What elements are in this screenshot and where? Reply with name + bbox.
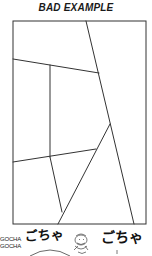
sfx-gochagocha-right: ごちゃ — [101, 230, 143, 244]
outer-frame — [13, 21, 146, 224]
speech-curve — [30, 250, 70, 256]
upper-cross-border — [13, 59, 99, 73]
sfx-gochagocha-left: ごちゃ — [25, 228, 65, 244]
chibi-character-doodle — [74, 234, 88, 254]
sfx-gocha-2: GOCHA — [0, 243, 21, 249]
sfx-gocha-1: GOCHA — [0, 236, 21, 242]
panel-layout-diagram — [0, 0, 152, 256]
long-diagonal-border — [86, 21, 134, 224]
lower-cross-border — [13, 149, 96, 162]
lower-slanted-border — [50, 157, 62, 212]
short-diagonal-border — [58, 124, 110, 224]
